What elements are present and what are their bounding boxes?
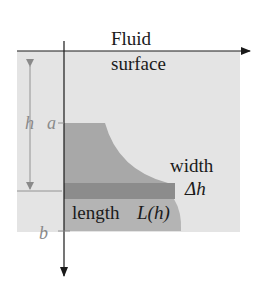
fluid-pressure-diagram: Fluid surface h a b width Δh length L(h)	[0, 0, 262, 292]
label-delta-h: Δh	[184, 178, 206, 199]
label-surface: surface	[111, 53, 166, 74]
label-length: length	[72, 202, 120, 223]
label-width: width	[170, 155, 214, 176]
strip-delta-h	[64, 183, 175, 199]
label-b: b	[39, 223, 48, 243]
label-a: a	[47, 113, 56, 133]
label-fluid: Fluid	[111, 28, 152, 49]
label-h: h	[25, 113, 34, 133]
label-L-of-h: L(h)	[136, 202, 170, 224]
